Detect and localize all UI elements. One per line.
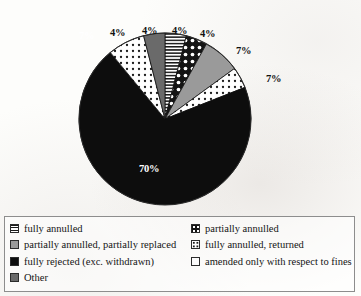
legend-item-label: Other (24, 272, 48, 283)
legend-item-amended-only-fines[interactable]: amended only with respect to fines (191, 253, 359, 270)
legend-item-other[interactable]: Other (10, 270, 188, 287)
legend-item-fully-annulled-returned[interactable]: fully annulled, returned (191, 237, 359, 254)
legend-item-partially-annulled[interactable]: partially annulled (191, 220, 359, 237)
slice-label-fully-annulled: 4% (142, 25, 157, 36)
slice-label-other: 4% (110, 27, 125, 38)
slice-label-top-left: 7% (79, 30, 94, 41)
legend-column-right: partially annulled fully annulled, retur… (191, 220, 359, 270)
darkgray-swatch-icon (10, 273, 19, 282)
gray-swatch-icon (10, 240, 19, 249)
slice-label-partially-replaced: 7% (236, 45, 251, 56)
legend-item-label: partially annulled, partially replaced (24, 239, 176, 250)
pie-chart-figure: 4% 4% 4% 4% 7% 7% 7% 70% fully annulled … (0, 0, 361, 296)
legend-item-label: partially annulled (205, 223, 279, 234)
black-dotted-swatch-icon (191, 224, 200, 233)
legend-item-label: fully rejected (exc. withdrawn) (24, 256, 154, 267)
slice-label-partially-annulled: 4% (172, 25, 187, 36)
white-dotted-swatch-icon (191, 240, 200, 249)
chart-plot-area: 4% 4% 4% 4% 7% 7% 7% 70% (0, 0, 361, 214)
slice-label-fully-rejected: 70% (139, 163, 159, 174)
legend-item-label: fully annulled, returned (205, 239, 304, 250)
chart-legend: fully annulled partially annulled, parti… (4, 216, 355, 292)
legend-column-left: fully annulled partially annulled, parti… (10, 220, 188, 286)
pie-chart (70, 30, 270, 215)
hstripe-swatch-icon (10, 224, 19, 233)
legend-item-fully-rejected[interactable]: fully rejected (exc. withdrawn) (10, 253, 188, 270)
white-swatch-icon (191, 257, 200, 266)
legend-item-partially-annulled-partially-replaced[interactable]: partially annulled, partially replaced (10, 237, 188, 254)
black-swatch-icon (10, 257, 19, 266)
legend-item-label: fully annulled (24, 223, 83, 234)
slice-label-fully-annulled-returned: 7% (266, 73, 281, 84)
legend-item-fully-annulled[interactable]: fully annulled (10, 220, 188, 237)
legend-item-label: amended only with respect to fines (205, 256, 352, 267)
slice-label-amended-fines-right: 4% (200, 28, 215, 39)
